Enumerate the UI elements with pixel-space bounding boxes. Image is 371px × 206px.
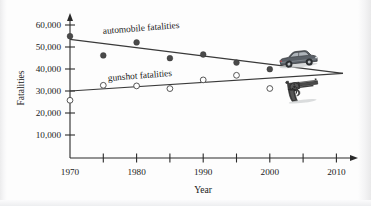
data-point [167,86,173,92]
x-axis-tick-labels: 1970 1980 1990 2000 2010 [61,167,346,177]
x-tick-label-1980: 1980 [127,167,146,177]
car-icon [278,49,318,69]
x-tick-label-2010: 2010 [327,167,346,177]
chart-figure: 60,000 50,000 40,000 30,000 20,000 10,00… [0,0,371,206]
x-tick-label-2000: 2000 [261,167,280,177]
y-tick-label-10000: 10,000 [36,130,62,140]
data-point [100,82,106,88]
y-axis-tick-labels: 60,000 50,000 40,000 30,000 20,000 10,00… [36,20,62,140]
y-tick-label-30000: 30,000 [36,86,62,96]
data-point [167,55,173,61]
x-axis-arrowhead [350,155,358,161]
data-point [200,52,206,58]
data-point [67,97,73,103]
data-point [134,83,140,89]
data-point [267,66,273,72]
y-tick-label-20000: 20,000 [36,108,62,118]
data-point [234,60,240,66]
y-tick-label-60000: 60,000 [36,20,62,30]
data-point [200,77,206,83]
x-tick-label-1990: 1990 [194,167,213,177]
data-point [234,72,240,78]
y-axis-title: Fatalities [15,70,26,105]
y-axis-arrowhead [67,13,73,21]
y-tick-label-40000: 40,000 [36,64,62,74]
data-point [267,86,273,92]
series-automobile-points [67,33,273,72]
x-axis-title: Year [194,184,212,195]
x-tick-label-1970: 1970 [61,167,80,177]
scatter-plot-canvas: 60,000 50,000 40,000 30,000 20,000 10,00… [0,0,371,206]
data-point [134,40,140,46]
x-axis [70,155,358,161]
data-point [100,53,106,59]
revolver-icon [285,78,319,105]
series-label-gunshot: gunshot fatalities [107,68,172,83]
y-tick-label-50000: 50,000 [36,42,62,52]
series-label-automobile: automobile fatalities [102,20,180,36]
data-point [67,33,73,39]
